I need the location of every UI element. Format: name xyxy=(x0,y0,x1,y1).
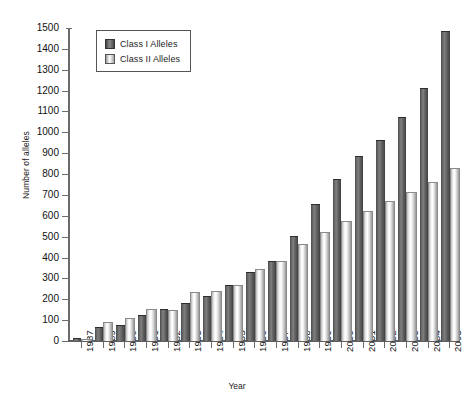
y-axis-tick-label: 1100 xyxy=(0,106,59,116)
y-axis-tick-label: 900 xyxy=(0,148,59,158)
legend-swatch-icon xyxy=(105,39,115,49)
bar-class-i-2002 xyxy=(376,140,384,341)
y-axis-tick-label: 1200 xyxy=(0,86,59,96)
bar-class-i-1993 xyxy=(181,303,189,341)
bar-class-i-1997 xyxy=(268,261,276,341)
y-axis-tick-label: 1000 xyxy=(0,127,59,137)
bar-class-i-1992 xyxy=(160,309,168,341)
bar-class-ii-1996 xyxy=(255,269,265,341)
bar-class-i-1995 xyxy=(225,285,233,341)
x-axis-tick xyxy=(81,342,82,348)
bar-class-ii-1999 xyxy=(320,232,330,342)
x-axis-tick xyxy=(103,342,104,348)
bar-class-ii-1995 xyxy=(233,285,243,341)
bar-class-ii-1992 xyxy=(168,310,178,341)
y-axis-tick-label: 400 xyxy=(0,253,59,263)
bar-class-i-2000 xyxy=(333,179,341,341)
bar-class-i-1994 xyxy=(203,296,211,341)
y-axis-tick-label: 100 xyxy=(0,315,59,325)
x-axis-tick xyxy=(124,342,125,348)
bar-class-i-1999 xyxy=(311,204,319,341)
y-axis-tick-label: 700 xyxy=(0,190,59,200)
x-axis-tick xyxy=(146,342,147,348)
x-axis-tick xyxy=(428,342,429,348)
bar-class-ii-1998 xyxy=(298,244,308,341)
x-axis-tick xyxy=(254,342,255,348)
bar-class-i-1998 xyxy=(290,236,298,341)
bar-class-i-1996 xyxy=(246,272,254,341)
chart-legend: Class I AllelesClass II Alleles xyxy=(96,30,191,72)
x-axis-tick xyxy=(449,342,450,348)
bar-class-ii-2003 xyxy=(406,192,416,341)
bar-class-ii-1994 xyxy=(211,291,221,341)
bar-class-i-2005 xyxy=(441,31,449,341)
x-axis-title: Year xyxy=(0,381,474,391)
legend-swatch-icon xyxy=(105,54,115,64)
bar-class-ii-1987 xyxy=(81,339,91,341)
x-axis-tick xyxy=(319,342,320,348)
allele-count-bar-chart: Number of alleles 0100200300400500600700… xyxy=(0,0,474,401)
bar-class-ii-2002 xyxy=(385,201,395,341)
y-axis-tick-label: 800 xyxy=(0,169,59,179)
y-axis-tick-label: 1400 xyxy=(0,44,59,54)
legend-item-label: Class I Alleles xyxy=(120,39,178,49)
y-axis-tick-label: 600 xyxy=(0,211,59,221)
bar-class-i-2004 xyxy=(420,88,428,341)
bar-class-ii-2000 xyxy=(341,221,351,341)
bar-class-ii-2005 xyxy=(450,168,460,341)
bar-class-i-1990 xyxy=(116,325,124,341)
bar-class-ii-2004 xyxy=(428,182,438,341)
y-axis-tick-label: 1300 xyxy=(0,65,59,75)
bar-class-ii-1989 xyxy=(103,322,113,341)
bar-class-i-2001 xyxy=(355,156,363,341)
plot-area xyxy=(70,28,460,341)
legend-item-class-i: Class I Alleles xyxy=(105,36,180,51)
y-axis-tick-label: 0 xyxy=(0,336,59,346)
x-axis-tick xyxy=(384,342,385,348)
x-axis-tick xyxy=(211,342,212,348)
bar-class-i-1991 xyxy=(138,315,146,341)
x-axis-tick xyxy=(363,342,364,348)
x-axis-tick xyxy=(233,342,234,348)
x-axis-tick xyxy=(298,342,299,348)
bar-class-ii-1993 xyxy=(190,292,200,341)
y-axis-tick-label: 200 xyxy=(0,294,59,304)
y-axis-tick-label: 300 xyxy=(0,273,59,283)
y-axis-tick-label: 500 xyxy=(0,232,59,242)
x-axis-tick xyxy=(168,342,169,348)
bar-class-ii-1990 xyxy=(125,318,135,341)
bar-class-ii-1997 xyxy=(276,261,286,341)
bar-class-ii-2001 xyxy=(363,211,373,341)
bar-class-i-1987 xyxy=(73,338,81,341)
x-axis-tick xyxy=(406,342,407,348)
legend-item-class-ii: Class II Alleles xyxy=(105,51,180,66)
bar-class-i-2003 xyxy=(398,117,406,341)
x-axis-tick xyxy=(276,342,277,348)
legend-item-label: Class II Alleles xyxy=(120,54,180,64)
y-axis-tick-label: 1500 xyxy=(0,23,59,33)
x-axis-tick xyxy=(189,342,190,348)
x-axis-tick-label: 1987 xyxy=(85,330,95,352)
x-axis-tick xyxy=(341,342,342,348)
bar-class-i-1989 xyxy=(95,327,103,341)
bar-class-ii-1991 xyxy=(146,309,156,341)
